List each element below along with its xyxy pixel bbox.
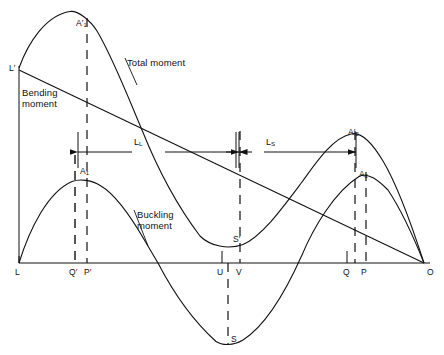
point-label-A2-sub: 2 [365, 173, 368, 179]
dimension-label-LL: LL [134, 138, 143, 148]
buckling-moment-label-line2: moment [137, 221, 174, 232]
point-label-A2-prime: A′2 [348, 128, 359, 138]
point-label-A1-prime-sub: 1 [83, 22, 86, 28]
point-label-L: L [15, 268, 20, 277]
dimension-label-LL-sub: L [139, 140, 143, 147]
point-label-O: O [427, 268, 434, 277]
point-label-P: P [361, 268, 367, 277]
point-label-S-prime-mark: ′ [239, 234, 241, 244]
total-moment-label: Total moment [127, 58, 185, 68]
point-label-U: U [217, 268, 223, 277]
dimension-label-LS: LS [266, 138, 275, 148]
point-label-Q-prime-mark: ′ [76, 267, 78, 277]
buckling-moment-label: Buckling moment [137, 210, 174, 231]
point-label-Q-prime-base: Q [69, 267, 76, 277]
point-label-P-prime: P′ [84, 268, 91, 277]
bending-moment-label: Bending moment [22, 88, 58, 109]
point-label-V: V [236, 268, 242, 277]
point-label-Q-prime: Q′ [69, 268, 77, 277]
point-label-Q: Q [343, 268, 350, 277]
point-label-A1-prime: A′1 [76, 19, 87, 29]
point-label-L-prime: L′ [9, 64, 15, 73]
point-label-A2: A2 [359, 170, 368, 180]
point-label-P-prime-mark: ′ [90, 267, 92, 277]
total-moment-curve [19, 11, 424, 263]
dimension-label-LS-sub: S [271, 140, 275, 147]
point-label-S-prime: S′ [233, 235, 240, 244]
bending-moment-label-line2: moment [22, 99, 58, 110]
point-label-A1: A1 [80, 167, 89, 177]
point-label-A2-prime-sub: 2 [355, 131, 358, 137]
moment-diagram-figure: Total moment Bending moment Buckling mom… [0, 0, 444, 355]
point-label-L-prime-mark: ′ [14, 63, 16, 73]
diagram-canvas [0, 0, 444, 355]
point-label-S: S [231, 335, 237, 344]
point-label-A1-sub: 1 [86, 170, 89, 176]
